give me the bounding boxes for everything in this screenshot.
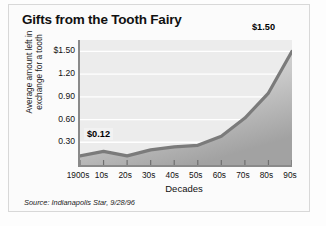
x-tick-label: 30s <box>142 170 155 180</box>
x-tick-label: 10s <box>95 170 108 180</box>
x-tick-label: 80s <box>260 170 273 180</box>
area-fill <box>80 51 292 165</box>
y-tick-label: 0.30 <box>58 137 75 146</box>
x-axis-line <box>78 165 292 167</box>
plot-area <box>78 40 292 165</box>
x-tick-label: 50s <box>189 170 202 180</box>
x-tick-label: 90s <box>283 170 296 180</box>
annotation-start-value: $0.12 <box>84 128 113 140</box>
x-tick-label: 40s <box>166 170 179 180</box>
chart-title: Gifts from the Tooth Fairy <box>22 12 182 27</box>
x-tick-label: 60s <box>213 170 226 180</box>
chart-figure: Gifts from the Tooth Fairy Average amoun… <box>0 0 326 226</box>
x-tick-label: 1900s <box>67 170 90 180</box>
y-tick-label: 0.90 <box>58 92 75 101</box>
y-axis-tick-labels: $1.501.200.900.600.30 <box>36 40 75 165</box>
y-tick-label: 1.20 <box>58 69 75 78</box>
x-tick-label: 70s <box>236 170 249 180</box>
annotation-end-value: $1.50 <box>249 21 278 33</box>
y-tick-label: 0.60 <box>58 115 75 124</box>
x-axis-title: Decades <box>78 183 290 194</box>
source-note: Source: Indianapolis Star, 9/28/96 <box>24 198 135 207</box>
x-tick-label: 20s <box>118 170 131 180</box>
y-tick-label: $1.50 <box>53 46 75 55</box>
area-series-svg <box>80 40 292 165</box>
x-axis-tick-labels: 1900s10s20s30s40s50s60s70s80s90s <box>78 170 290 182</box>
